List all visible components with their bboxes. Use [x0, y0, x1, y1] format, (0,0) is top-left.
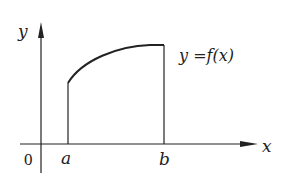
diagram-canvas: y x 0 a b y =f(x) [0, 0, 285, 182]
curve-f-of-x [68, 45, 164, 83]
curve-label: y =f(x) [178, 46, 234, 65]
y-axis-label: y [17, 21, 28, 41]
x-axis-label: x [262, 136, 272, 156]
origin-label: 0 [24, 150, 33, 169]
x-axis-arrow-icon [240, 141, 258, 147]
y-axis-arrow-icon [38, 22, 44, 38]
a-label: a [61, 148, 71, 168]
b-label: b [159, 149, 170, 169]
integral-region-diagram: y x 0 a b y =f(x) [0, 0, 285, 182]
